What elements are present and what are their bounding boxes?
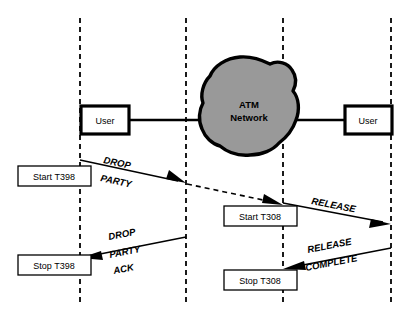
timer-box-start-t308[interactable]: Start T308 xyxy=(224,206,297,226)
drop-party-label-line2: PARTY xyxy=(100,172,135,190)
sequence-diagram: ATM Network User User DROP PARTY xyxy=(0,0,408,324)
timer-box-stop-t398[interactable]: Stop T398 xyxy=(18,255,91,275)
user-left-label: User xyxy=(95,116,114,126)
network-transit-arrowhead xyxy=(262,194,283,205)
release-arrowhead xyxy=(369,219,391,228)
atm-network-node: ATM Network xyxy=(199,57,298,155)
message-release: RELEASE xyxy=(283,195,391,228)
start-t308-label: Start T308 xyxy=(239,212,281,222)
release-complete-label-line1: RELEASE xyxy=(306,235,353,254)
message-drop-party: DROP PARTY xyxy=(80,154,186,190)
network-label-line2: Network xyxy=(230,112,268,123)
drop-party-ack-label-line1: DROP xyxy=(107,226,137,242)
message-release-complete: RELEASE COMPLETE xyxy=(283,235,391,272)
diagram-canvas: ATM Network User User DROP PARTY xyxy=(0,0,408,324)
release-complete-label-line2: COMPLETE xyxy=(304,252,359,273)
drop-party-ack-label-line2: PARTY xyxy=(108,243,142,260)
message-drop-party-ack: DROP PARTY ACK xyxy=(80,226,186,276)
stop-t398-label: Stop T398 xyxy=(33,261,74,271)
user-right-label: User xyxy=(358,116,377,126)
network-label-line1: ATM xyxy=(239,99,259,110)
drop-party-ack-label-line3: ACK xyxy=(111,261,135,276)
release-complete-arrowhead xyxy=(283,261,306,270)
stop-t308-label: Stop T308 xyxy=(239,276,280,286)
network-transit-line xyxy=(187,184,263,200)
release-label-line1: RELEASE xyxy=(311,195,358,214)
start-t398-label: Start T398 xyxy=(33,172,75,182)
message-network-transit xyxy=(187,184,283,205)
timer-box-start-t398[interactable]: Start T398 xyxy=(18,166,91,186)
user-right-node[interactable]: User xyxy=(345,106,392,134)
timer-box-stop-t308[interactable]: Stop T308 xyxy=(224,270,297,290)
user-left-node[interactable]: User xyxy=(81,106,129,134)
